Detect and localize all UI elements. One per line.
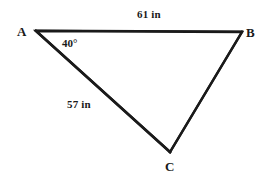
angle-measure-label-a: 40° <box>62 38 77 49</box>
triangle-diagram: A B C 61 in 57 in 40° <box>0 0 266 183</box>
side-length-label-ab: 61 in <box>137 9 161 20</box>
side-length-label-ac: 57 in <box>67 99 91 110</box>
side-bc-line <box>170 32 242 152</box>
triangle-outline <box>0 0 266 183</box>
triangle-shape <box>36 31 242 152</box>
side-ab-line <box>36 31 242 32</box>
vertex-label-c: C <box>165 160 174 173</box>
vertex-label-a: A <box>17 25 26 38</box>
vertex-label-b: B <box>246 26 255 39</box>
side-ac-line <box>36 31 170 152</box>
